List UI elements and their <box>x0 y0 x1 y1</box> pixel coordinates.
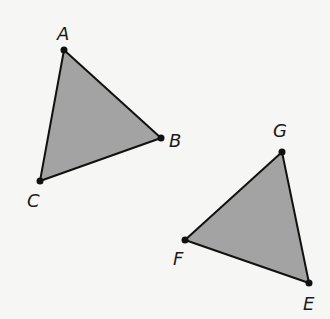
triangle-abc-shape <box>40 50 161 181</box>
vertex-b-label: B <box>169 130 181 151</box>
vertex-a-point <box>61 47 68 54</box>
vertex-c-point <box>37 178 44 185</box>
triangle-abc: A B C <box>27 23 181 211</box>
vertex-f-label: F <box>173 248 184 269</box>
triangle-efg-shape <box>185 152 309 283</box>
vertex-g-label: G <box>273 120 287 141</box>
triangle-diagram: A B C G F E <box>0 0 330 319</box>
triangle-efg: G F E <box>173 120 315 314</box>
vertex-f-point <box>182 237 189 244</box>
vertex-a-label: A <box>56 23 69 44</box>
vertex-c-label: C <box>27 190 40 211</box>
vertex-e-point <box>306 280 313 287</box>
vertex-b-point <box>158 135 165 142</box>
vertex-g-point <box>279 149 286 156</box>
vertex-e-label: E <box>303 293 315 314</box>
